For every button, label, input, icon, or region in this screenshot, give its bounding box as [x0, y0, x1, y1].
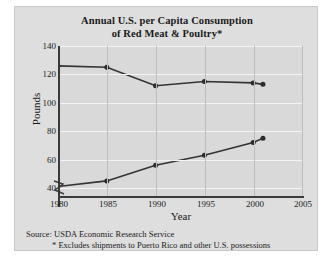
line-poultry	[58, 138, 263, 186]
gridline-horizontal-80	[58, 131, 303, 132]
gridline-horizontal-140	[58, 46, 303, 47]
x-tick-1995: 1995	[186, 199, 226, 209]
footnote-line: * Excludes shipments to Puerto Rico and …	[26, 240, 316, 251]
x-tick-1985: 1985	[88, 199, 128, 209]
plot-area	[58, 46, 303, 196]
x-tick-1980: 1980	[39, 199, 79, 209]
gridline-horizontal-40	[58, 188, 303, 189]
data-point	[260, 136, 265, 141]
y-axis-line	[58, 46, 60, 196]
gridline-horizontal-120	[58, 74, 303, 75]
chart-figure: Annual U.S. per Capita Consumption of Re…	[14, 6, 318, 251]
source-line: Source: USDA Economic Research Service	[26, 229, 316, 240]
gridline-vertical-1985	[107, 46, 108, 196]
x-tick-2000: 2000	[235, 199, 275, 209]
chart-title: Annual U.S. per Capita Consumption of Re…	[15, 15, 319, 40]
gridline-horizontal-100	[58, 103, 303, 104]
data-series-layer	[58, 46, 303, 196]
x-tick-1990: 1990	[137, 199, 177, 209]
data-point	[260, 82, 265, 87]
gridline-horizontal-60	[58, 160, 303, 161]
source-block: Source: USDA Economic Research Service *…	[26, 229, 316, 251]
gridline-vertical-2000	[254, 46, 255, 196]
x-tick-2005: 2005	[283, 199, 323, 209]
x-axis-title: Year	[58, 210, 304, 222]
gridline-vertical-1990	[156, 46, 157, 196]
x-axis-line	[58, 196, 304, 198]
chart-title-line-1: Annual U.S. per Capita Consumption	[81, 15, 253, 26]
chart-title-line-2: of Red Meat & Poultry*	[15, 28, 319, 41]
gridline-vertical-1995	[205, 46, 206, 196]
y-axis-title: Pounds	[30, 79, 42, 139]
y-tick-140: 140	[30, 41, 56, 51]
y-tick-60: 60	[30, 155, 56, 165]
y-tick-40: 40	[30, 183, 56, 193]
line-red-meat	[58, 66, 263, 86]
gridline-vertical-2005	[302, 46, 303, 196]
y-tick-120: 120	[30, 69, 56, 79]
markers-poultry	[58, 136, 265, 189]
